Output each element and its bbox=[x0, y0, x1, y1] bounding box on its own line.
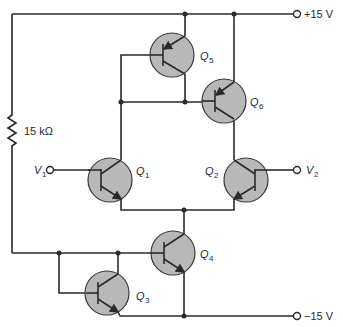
q3-emitter-wire bbox=[118, 312, 147, 316]
positive-supply-label: +15 V bbox=[304, 8, 334, 20]
svg-text:Q: Q bbox=[250, 96, 259, 108]
junction-dot bbox=[183, 12, 188, 17]
q5-label: Q 5 bbox=[200, 50, 214, 65]
junction-dot bbox=[182, 208, 187, 213]
negative-supply-terminal bbox=[294, 313, 301, 320]
transistor-q2 bbox=[224, 158, 268, 202]
svg-text:Q: Q bbox=[200, 248, 209, 260]
v1-label: V 1 bbox=[34, 164, 47, 179]
negative-supply-label: −15 V bbox=[304, 310, 334, 322]
v2-terminal bbox=[294, 167, 301, 174]
transistor-q5 bbox=[150, 33, 194, 77]
circuit-diagram: +15 V −15 V 15 kΩ V 1 V 2 Q 1 Q 2 Q 3 Q … bbox=[0, 0, 343, 327]
v1-terminal bbox=[47, 167, 54, 174]
q2-label: Q 2 bbox=[205, 165, 219, 180]
svg-text:2: 2 bbox=[214, 171, 219, 180]
svg-text:4: 4 bbox=[209, 254, 214, 263]
resistor-label: 15 kΩ bbox=[24, 125, 53, 137]
svg-text:Q: Q bbox=[136, 290, 145, 302]
junction-dot bbox=[232, 12, 237, 17]
svg-text:1: 1 bbox=[42, 170, 47, 179]
svg-text:Q: Q bbox=[136, 165, 145, 177]
resistor-15k bbox=[8, 14, 16, 253]
svg-text:5: 5 bbox=[209, 56, 214, 65]
positive-supply-terminal bbox=[294, 11, 301, 18]
transistor-q6 bbox=[202, 79, 246, 123]
svg-text:Q: Q bbox=[200, 50, 209, 62]
junction-dot bbox=[182, 314, 187, 319]
svg-text:3: 3 bbox=[145, 296, 150, 305]
transistor-q4 bbox=[151, 231, 195, 275]
q3-label: Q 3 bbox=[136, 290, 150, 305]
junction-dot bbox=[119, 100, 124, 105]
q4-label: Q 4 bbox=[200, 248, 214, 263]
junction-dot bbox=[116, 251, 121, 256]
svg-text:2: 2 bbox=[314, 170, 319, 179]
q6-label: Q 6 bbox=[250, 96, 264, 111]
svg-text:1: 1 bbox=[145, 171, 150, 180]
v2-label: V 2 bbox=[306, 164, 319, 179]
svg-text:Q: Q bbox=[205, 165, 214, 177]
q3-base-wire bbox=[59, 253, 86, 293]
emitter-tail-wire bbox=[121, 199, 234, 210]
junction-dot bbox=[183, 100, 188, 105]
transistor-q1 bbox=[88, 158, 132, 202]
svg-text:6: 6 bbox=[259, 102, 264, 111]
junction-dot bbox=[57, 251, 62, 256]
q1-label: Q 1 bbox=[136, 165, 150, 180]
transistor-q3 bbox=[85, 271, 129, 315]
